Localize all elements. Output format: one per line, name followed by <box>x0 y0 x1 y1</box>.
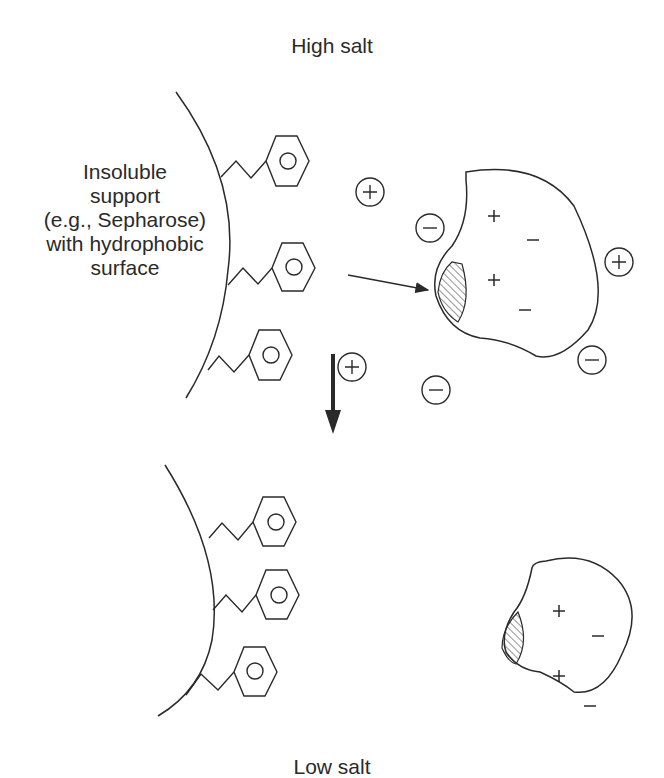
protein-top <box>435 170 599 357</box>
condition-label-bottom: Low salt <box>282 755 382 778</box>
ligand-top-1 <box>221 136 309 186</box>
ligand-bottom-2 <box>213 570 299 619</box>
protein-bottom <box>502 558 632 706</box>
support-label: Insoluble support (e.g., Sepharose) with… <box>20 160 230 280</box>
ligand-top-3 <box>208 330 292 380</box>
support-label-line: surface <box>20 256 230 280</box>
support-label-line: Insoluble <box>20 160 230 184</box>
ligand-top-2 <box>228 243 315 291</box>
ligand-bottom-1 <box>209 497 296 546</box>
support-label-line: with hydrophobic <box>20 232 230 256</box>
condition-label-top: High salt <box>282 34 382 58</box>
ligand-bottom-3 <box>186 647 277 696</box>
support-label-line: support <box>20 184 230 208</box>
binding-arrow <box>348 275 428 290</box>
support-label-line: (e.g., Sepharose) <box>20 208 230 232</box>
free-ions-top <box>338 178 633 404</box>
